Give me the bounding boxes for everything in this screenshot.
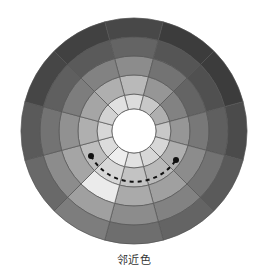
wheel-cell-seg0-ring4	[105, 18, 163, 40]
diagram-caption: 邻近色	[0, 251, 261, 267]
wheel-cell-seg9-ring4	[21, 102, 43, 160]
wheel-cell-seg0-ring3	[110, 37, 159, 59]
wheel-cell-seg9-ring3	[40, 107, 62, 156]
wheel-cell-seg3-ring4	[225, 102, 247, 160]
wheel-cell-seg0-ring2	[115, 56, 154, 77]
wheel-cell-seg3-ring2	[188, 112, 209, 151]
wheel-cell-seg6-ring4	[105, 222, 163, 244]
wheel-cell-seg6-ring3	[110, 203, 159, 225]
arc-start-dot-icon	[88, 153, 94, 159]
color-wheel-diagram	[0, 0, 261, 271]
wheel-center-hole	[112, 109, 156, 153]
wheel-cell-seg6-ring2	[115, 185, 154, 206]
arc-end-dot-icon	[173, 157, 179, 163]
wheel-cell-seg9-ring2	[59, 112, 80, 151]
wheel-cell-seg3-ring3	[206, 107, 228, 156]
